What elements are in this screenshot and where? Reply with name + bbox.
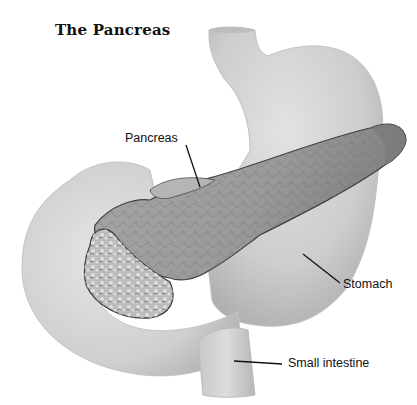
diagram-canvas: The Pancreas Pancreas Stomach Small inte… bbox=[0, 0, 417, 405]
diagram-title: The Pancreas bbox=[55, 21, 170, 39]
pancreas-label: Pancreas bbox=[125, 131, 178, 145]
stomach-label: Stomach bbox=[343, 277, 392, 291]
pancreas-illustration bbox=[0, 0, 417, 405]
small-intestine-shape bbox=[198, 328, 255, 397]
small-intestine-label: Small intestine bbox=[288, 356, 369, 370]
